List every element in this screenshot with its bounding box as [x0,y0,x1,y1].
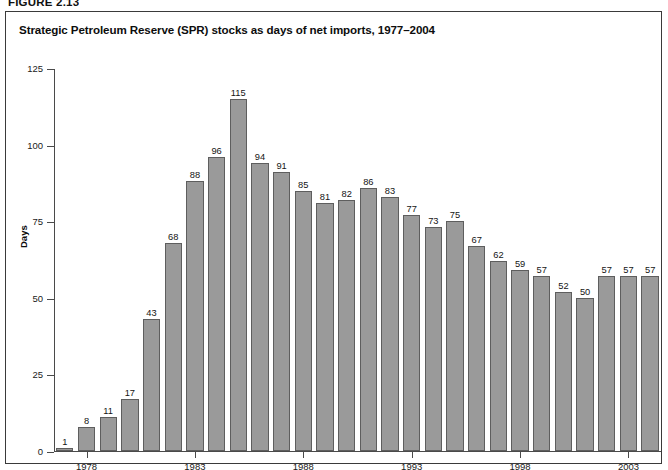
bar: 81 [316,203,333,451]
bar-value-label: 11 [103,406,113,416]
bar-value-label: 57 [537,265,547,275]
bar: 50 [576,298,593,451]
x-tick-label: 1993 [401,461,422,470]
bar-value-label: 91 [276,161,286,171]
bar: 17 [121,399,138,451]
bar: 82 [338,200,355,451]
figure-box: Strategic Petroleum Reserve (SPR) stocks… [5,11,662,464]
bar-value-label: 85 [298,180,308,190]
bar: 75 [446,221,463,451]
x-tick-label: 1978 [76,461,97,470]
bar-value-label: 83 [385,186,395,196]
bar-value-label: 88 [190,170,200,180]
bar-value-label: 82 [341,189,351,199]
x-tick [303,452,304,458]
bar-chart-plot-area: 0255075100125 197819831988199319982003 1… [54,69,661,452]
bar-value-label: 115 [231,88,246,98]
bar: 115 [230,99,247,451]
x-tick [195,452,196,458]
x-tick-label: 1983 [184,461,205,470]
bar-value-label: 62 [493,250,503,260]
bar: 57 [598,276,615,451]
x-tick-label: 2003 [618,461,639,470]
bar: 86 [360,188,377,452]
bar-value-label: 52 [558,281,568,291]
y-axis-title: Days [18,225,29,248]
bar-value-label: 86 [363,177,373,187]
y-tick: 50 [47,299,54,300]
y-tick-label: 75 [32,216,43,227]
x-tick-label: 1988 [293,461,314,470]
y-tick: 25 [47,375,54,376]
bar: 62 [490,261,507,451]
bar-value-label: 57 [623,265,633,275]
bar: 11 [100,417,117,451]
bar: 77 [403,215,420,451]
x-axis-line [54,451,661,452]
bar: 57 [533,276,550,451]
bar-value-label: 77 [407,204,417,214]
figure-caption: FIGURE 2.13 [8,0,79,8]
bar: 59 [511,270,528,451]
bar: 43 [143,319,160,451]
bar: 91 [273,172,290,451]
y-tick-label: 100 [27,140,43,151]
bar-value-label: 59 [515,259,525,269]
bar-value-label: 17 [125,388,135,398]
bar: 68 [165,243,182,451]
bar-value-label: 96 [211,146,221,156]
x-tick [87,452,88,458]
x-tick [628,452,629,458]
bar-value-label: 43 [146,308,156,318]
bar: 83 [381,197,398,451]
bar: 57 [620,276,637,451]
bar: 52 [555,292,572,451]
y-tick-label: 50 [32,293,43,304]
bar: 96 [208,157,225,451]
bar-value-label: 81 [320,192,330,202]
y-tick: 125 [47,69,54,70]
y-tick: 100 [47,146,54,147]
bar-value-label: 67 [472,235,482,245]
chart-title: Strategic Petroleum Reserve (SPR) stocks… [19,23,435,36]
x-tick [520,452,521,458]
bar: 57 [641,276,658,451]
bar: 67 [468,246,485,451]
x-tick-label: 1998 [510,461,531,470]
bar-value-label: 1 [62,437,67,447]
bar: 73 [425,227,442,451]
y-tick: 0 [47,452,54,453]
bar-value-label: 57 [645,265,655,275]
y-tick: 75 [47,222,54,223]
bar: 8 [78,427,95,452]
y-tick-label: 0 [38,446,43,457]
y-axis-line [54,69,55,452]
bar-value-label: 94 [255,152,265,162]
bar-value-label: 68 [168,232,178,242]
bar-value-label: 75 [450,210,460,220]
bar: 85 [295,191,312,451]
bar-value-label: 50 [580,287,590,297]
bar-value-label: 73 [428,216,438,226]
x-tick [412,452,413,458]
y-tick-label: 125 [27,63,43,74]
y-tick-label: 25 [32,369,43,380]
bar-value-label: 57 [602,265,612,275]
bar: 88 [186,181,203,451]
bar-value-label: 8 [84,416,89,426]
bar: 1 [56,448,73,451]
bar: 94 [251,163,268,451]
